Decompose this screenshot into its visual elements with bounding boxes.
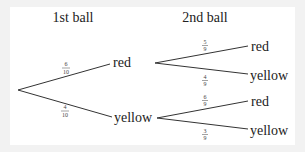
prob-denominator: 9 (204, 101, 207, 107)
prob-yellow-red: 6 9 (202, 94, 208, 107)
prob-denominator: 10 (62, 112, 68, 118)
outcome-first-red: red (113, 55, 131, 70)
prob-denominator: 10 (63, 69, 69, 75)
outcome-first-yellow: yellow (114, 110, 153, 125)
prob-red-yellow: 4 9 (202, 74, 208, 87)
prob-numerator: 6 (65, 61, 68, 67)
header-1st-ball: 1st ball (53, 10, 94, 25)
prob-red-red: 5 9 (202, 39, 208, 52)
prob-numerator: 4 (204, 74, 207, 80)
outcome-red-yellow: yellow (250, 68, 289, 83)
outcome-yellow-yellow: yellow (250, 123, 289, 138)
prob-numerator: 3 (204, 128, 207, 134)
branch-yellow-red (157, 101, 248, 118)
branch-red-red (155, 46, 248, 63)
prob-first-red: 6 10 (62, 61, 70, 75)
outcome-red-red: red (251, 39, 269, 54)
prob-denominator: 9 (204, 81, 207, 87)
tree-diagram: 1st ball 2nd ball 6 10 4 10 red yellow 5… (0, 0, 305, 152)
prob-numerator: 4 (64, 104, 67, 110)
prob-denominator: 9 (204, 46, 207, 52)
prob-denominator: 9 (204, 135, 207, 141)
prob-yellow-yellow: 3 9 (202, 128, 208, 141)
branch-yellow-yellow (157, 118, 248, 129)
prob-numerator: 6 (204, 94, 207, 100)
prob-first-yellow: 4 10 (61, 104, 69, 118)
branch-red-yellow (155, 63, 248, 74)
outcome-yellow-red: red (251, 94, 269, 109)
header-2nd-ball: 2nd ball (182, 10, 228, 25)
prob-numerator: 5 (204, 39, 207, 45)
